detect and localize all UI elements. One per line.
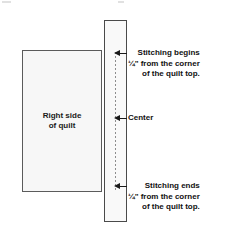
quilt-top-rectangle: Right side of quilt <box>22 50 102 192</box>
callout-stitching-ends: Stitching ends ¼" from the corner of the… <box>114 181 200 213</box>
callout-stitching-begins: Stitching begins ¼" from the corner of t… <box>114 48 200 80</box>
left-arrow-icon <box>114 181 128 192</box>
callout-stitching-ends-text: Stitching ends ¼" from the corner of the… <box>128 181 200 213</box>
quilt-border-diagram: Right side of quilt Stitching begins ¼" … <box>0 0 233 234</box>
crop-artifact-left <box>2 1 11 3</box>
arrow-tail-shape <box>120 53 127 54</box>
left-arrow-icon <box>114 113 128 124</box>
arrow-tail-shape <box>120 186 127 187</box>
arrow-tail-shape <box>120 118 127 119</box>
quilt-top-label: Right side of quilt <box>23 111 101 131</box>
left-arrow-icon <box>114 48 128 59</box>
callout-stitching-begins-text: Stitching begins ¼" from the corner of t… <box>128 48 200 80</box>
callout-center-text: Center <box>128 113 153 124</box>
callout-center: Center <box>114 113 153 124</box>
crop-artifact-right <box>118 1 124 3</box>
